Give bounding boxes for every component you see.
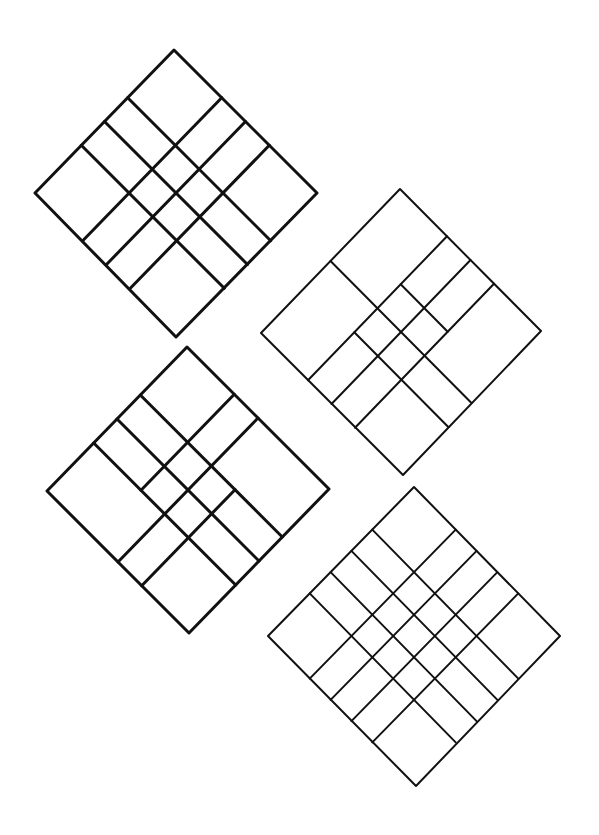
- diagram-canvas: [0, 0, 599, 835]
- grid-line-ascending: [331, 551, 477, 700]
- grid-diamond-2: [261, 189, 541, 475]
- grid-line-ascending: [372, 593, 518, 742]
- grid-line-descending: [310, 593, 456, 742]
- grid-diamond-1: [35, 50, 317, 337]
- grid-line-descending: [372, 530, 518, 679]
- diamond-outline: [268, 487, 560, 786]
- grid-diamond-3: [47, 347, 329, 633]
- grid-diamond-4: [268, 487, 560, 786]
- grid-line-descending: [331, 572, 477, 721]
- grid-line-ascending: [310, 530, 456, 679]
- grid-line-descending: [351, 551, 497, 700]
- diagram-svg: [0, 0, 599, 835]
- grid-line-ascending: [351, 572, 497, 721]
